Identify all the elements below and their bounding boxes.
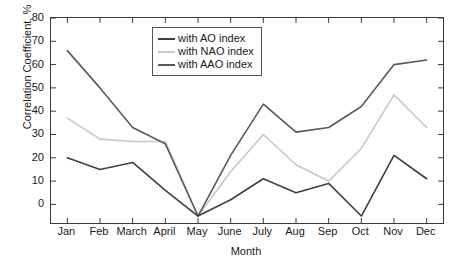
x-axis-tick-label: July	[253, 226, 273, 237]
legend-label: with NAO index	[178, 46, 254, 57]
x-axis-tick-labels: JanFebMarchAprilMayJuneJulyAugSepOctNovD…	[50, 226, 442, 242]
x-axis-tick-label: Jan	[57, 226, 75, 237]
chart-legend: with AO indexwith NAO indexwith AAO inde…	[152, 27, 262, 76]
legend-entry: with NAO index	[158, 45, 254, 58]
x-axis-tick-label: Nov	[383, 226, 403, 237]
x-axis-tick-label: Feb	[90, 226, 109, 237]
legend-line-swatch-icon	[158, 51, 175, 53]
correlation-coefficient-line-chart: 01020304050607080 Correlation Coefficien…	[0, 0, 460, 266]
x-axis-tick-label: Dec	[416, 226, 436, 237]
legend-label: with AO index	[178, 33, 245, 44]
legend-entry: with AO index	[158, 32, 254, 45]
legend-line-swatch-icon	[158, 64, 175, 66]
legend-entry: with AAO index	[158, 58, 254, 71]
x-axis-tick-label: Aug	[285, 226, 305, 237]
x-axis-tick-label: June	[218, 226, 242, 237]
y-axis-title: Correlation Coefficient, %	[21, 0, 33, 157]
series-line-with-ao-index	[67, 155, 426, 216]
x-axis-tick-label: May	[187, 226, 208, 237]
x-axis-tick-label: March	[116, 226, 147, 237]
x-axis-tick-label: Oct	[352, 226, 369, 237]
legend-label: with AAO index	[178, 59, 253, 70]
y-axis-tick-label: 0	[0, 198, 44, 209]
x-axis-title: Month	[50, 245, 442, 257]
y-axis-tick-label: 10	[0, 175, 44, 186]
x-axis-tick-label: April	[153, 226, 175, 237]
x-axis-tick-label: Sep	[318, 226, 338, 237]
legend-line-swatch-icon	[158, 38, 175, 40]
